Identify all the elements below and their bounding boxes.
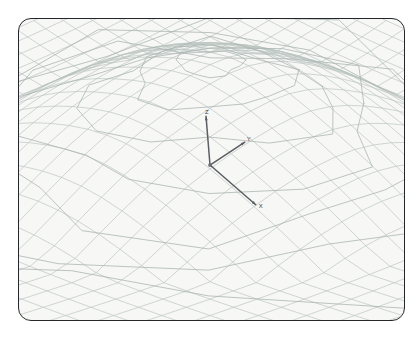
- y-axis-label: Y: [247, 136, 251, 142]
- axes-origin-marker: [208, 163, 212, 167]
- 3d-wireframe-viewport[interactable]: ZYX: [18, 18, 405, 321]
- app-root: ZYX: [0, 0, 420, 337]
- z-axis-label: Z: [205, 109, 209, 115]
- scene-canvas[interactable]: ZYX: [19, 19, 404, 320]
- x-axis-label: X: [259, 203, 263, 209]
- coordinate-axes: ZYX: [205, 109, 263, 208]
- y-axis: [210, 142, 245, 165]
- z-axis: [206, 116, 210, 165]
